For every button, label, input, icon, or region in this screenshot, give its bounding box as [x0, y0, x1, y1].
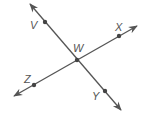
point-label-x: X — [114, 21, 123, 33]
point-v — [43, 20, 47, 24]
intersecting-lines-figure: VXWZY — [0, 0, 141, 114]
point-y — [103, 89, 107, 93]
point-w — [75, 58, 79, 62]
line-VY — [30, 4, 121, 110]
point-label-w: W — [73, 42, 85, 54]
point-label-y: Y — [92, 90, 100, 102]
diagram-canvas: VXWZY — [0, 0, 141, 114]
point-label-v: V — [30, 19, 39, 31]
point-label-z: Z — [23, 73, 32, 85]
point-z — [32, 83, 36, 87]
point-x — [117, 34, 121, 38]
